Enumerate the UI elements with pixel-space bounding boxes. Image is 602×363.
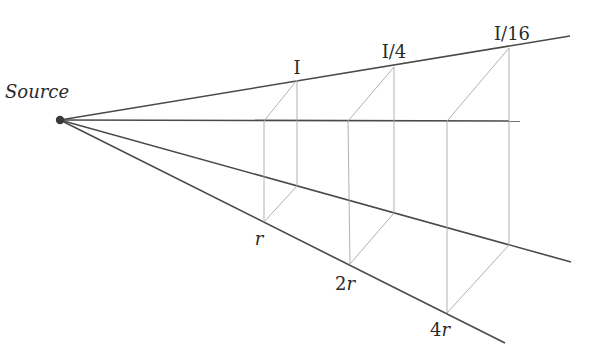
intensity-label-I-16: I/16 [494,23,530,44]
ray-top [60,36,570,120]
area-box-2r [348,67,394,264]
area-box-4r [447,48,509,313]
area-box-r [264,80,297,222]
ray-lower [60,120,571,262]
distance-label-r: r [255,228,265,249]
ray-center-axis [60,120,520,121]
source-label: Source [5,81,69,102]
source-point-icon [56,116,64,124]
ray-bottom [60,120,505,343]
distance-label-4r: 4r [430,319,451,340]
intensity-label-I: I [293,57,300,78]
inverse-square-diagram: Source I I/4 I/16 r 2r 4r [0,0,602,363]
distance-label-2r: 2r [335,273,356,294]
intensity-label-I-4: I/4 [382,41,407,62]
